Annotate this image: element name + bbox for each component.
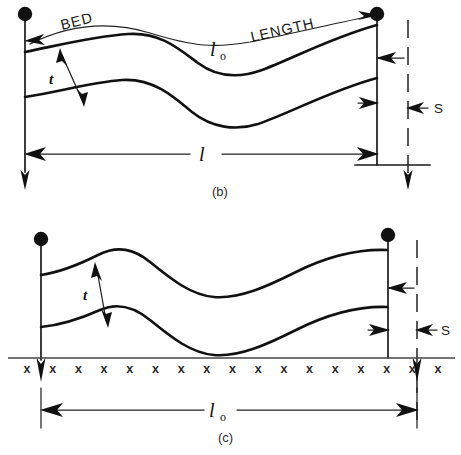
panel-c-hatch-mark: x (229, 362, 236, 376)
panel-c-hatch-mark: x (435, 362, 442, 376)
panel-c-right-pin-head-icon (381, 228, 395, 242)
panel-c-hatch-mark: x (280, 362, 287, 376)
panel-c-hatch-mark: x (203, 362, 210, 376)
panel-c-l0-subscript: o (220, 410, 226, 424)
panel-b-caption: (b) (212, 184, 228, 199)
panel-c-hatch-mark: x (383, 362, 390, 376)
panel-c-hatch-mark: x (409, 362, 416, 376)
panel-c-hatch-mark: x (306, 362, 313, 376)
diagram-svg: t BED LENGTH l o S (0, 0, 461, 455)
panel-b-l0-subscript: o (220, 49, 226, 63)
panel-b-l0-script-l: l (210, 38, 216, 60)
panel-c-hatch-mark: x (152, 362, 159, 376)
panel-b-span-label: l (199, 143, 205, 165)
panel-c-hatch-mark: x (255, 362, 262, 376)
panel-c-hatch-mark: x (178, 362, 185, 376)
canvas-background (0, 0, 461, 455)
panel-c-hatch-mark: x (101, 362, 108, 376)
panel-c-hatch-mark: x (24, 362, 31, 376)
panel-c-hatch-mark: x (357, 362, 364, 376)
panel-b-slip-label: S (434, 101, 443, 116)
panel-c-caption: (c) (218, 430, 233, 445)
panel-c-hatch-mark: x (49, 362, 56, 376)
panel-c-hatch-mark: x (126, 362, 133, 376)
panel-c-hatch-mark: x (75, 362, 82, 376)
panel-c-hatch-mark: x (332, 362, 339, 376)
figure-root: t BED LENGTH l o S (0, 0, 461, 455)
panel-c-left-pin-head-icon (34, 232, 48, 246)
panel-b-left-pin-head-icon (18, 7, 32, 21)
panel-c-l0-script-l: l (209, 399, 215, 421)
panel-c-slip-label: S (441, 323, 450, 338)
